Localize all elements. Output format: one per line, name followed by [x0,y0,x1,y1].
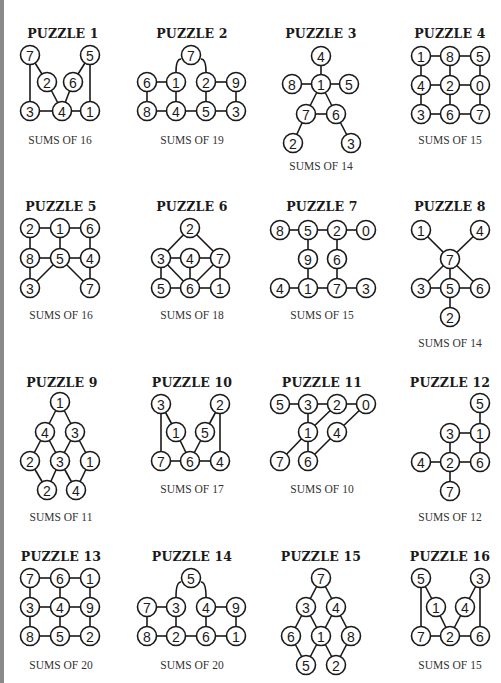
number-circle: 2 [167,627,186,646]
number-circle: 1 [211,279,230,298]
sums-label: SUMS OF 15 [418,659,481,671]
puzzle-15: 73461852 [282,569,361,675]
number-circle: 6 [282,627,301,646]
svg-text:5: 5 [276,397,284,413]
puzzle-13: 761349852 [21,569,100,646]
number-circle: 7 [211,249,230,268]
svg-text:1: 1 [172,75,180,91]
number-circle: 6 [471,453,490,472]
sums-label: SUMS OF 16 [29,309,92,321]
number-circle: 4 [412,453,431,472]
puzzle-title: PUZZLE 7 [286,199,358,214]
number-circle: 9 [227,598,246,617]
svg-text:3: 3 [71,425,79,441]
svg-text:4: 4 [317,49,325,65]
number-circle: 2 [327,656,346,675]
puzzle-4: 185420367 [412,47,490,124]
svg-text:1: 1 [417,49,425,65]
number-circle: 2 [441,627,460,646]
svg-text:5: 5 [56,629,64,645]
number-circle: 4 [271,279,290,298]
svg-text:3: 3 [476,571,484,587]
puzzle-title: PUZZLE 4 [414,26,486,41]
svg-text:7: 7 [187,48,195,64]
sums-label: SUMS OF 10 [290,483,353,495]
svg-text:2: 2 [26,221,34,237]
svg-text:2: 2 [446,455,454,471]
number-circle: 1 [299,279,318,298]
number-circle: 8 [21,249,40,268]
puzzle-14: 573498261 [138,569,246,646]
number-circle: 7 [312,569,331,588]
number-circle: 7 [441,250,460,269]
number-circle: 9 [227,73,246,92]
svg-text:2: 2 [446,78,454,94]
svg-text:7: 7 [476,107,484,123]
sums-label: SUMS OF 15 [290,309,353,321]
number-circle: 5 [299,221,318,240]
number-circle: 2 [441,76,460,95]
svg-text:0: 0 [362,397,370,413]
number-circle: 8 [138,627,157,646]
svg-text:4: 4 [333,425,341,441]
puzzle-title: PUZZLE 5 [25,199,97,214]
number-circle: 3 [441,424,460,443]
svg-text:9: 9 [232,75,240,91]
connector-arc [201,59,206,72]
svg-text:5: 5 [304,223,312,239]
svg-text:3: 3 [232,104,240,120]
svg-text:8: 8 [143,104,151,120]
number-circle: 6 [328,250,347,269]
number-circle: 1 [427,598,446,617]
number-circle: 5 [412,569,431,588]
svg-text:6: 6 [476,281,484,297]
svg-text:1: 1 [172,425,180,441]
number-circle: 3 [412,279,431,298]
puzzle-16: 5314726 [412,569,490,646]
puzzle-8: 1473562 [412,221,490,327]
number-circle: 3 [152,395,171,414]
number-circle: 1 [167,423,186,442]
svg-text:2: 2 [43,75,51,91]
number-circle: 2 [38,481,57,500]
svg-text:4: 4 [476,223,484,239]
svg-text:7: 7 [157,454,165,470]
number-circle: 1 [167,73,186,92]
number-circle: 3 [299,395,318,414]
svg-text:6: 6 [304,454,312,470]
number-circle: 2 [81,627,100,646]
svg-text:5: 5 [56,251,64,267]
svg-text:1: 1 [86,571,94,587]
puzzle-title: PUZZLE 11 [282,375,362,390]
number-circle: 4 [53,102,72,121]
number-circle: 2 [441,308,460,327]
number-circle: 6 [81,219,100,238]
number-circle: 3 [227,102,246,121]
svg-text:3: 3 [417,281,425,297]
number-circle: 1 [471,424,490,443]
number-circle: 7 [297,105,316,124]
number-circle: 1 [81,569,100,588]
number-circle: 6 [441,105,460,124]
number-circle: 6 [327,105,346,124]
sums-label: SUMS OF 20 [160,659,223,671]
svg-text:6: 6 [202,629,210,645]
svg-text:2: 2 [333,223,341,239]
svg-text:3: 3 [362,281,370,297]
svg-text:5: 5 [476,396,484,412]
number-circle: 4 [167,102,186,121]
svg-text:1: 1 [304,425,312,441]
puzzle-title: PUZZLE 15 [281,549,361,564]
svg-text:7: 7 [143,600,151,616]
puzzle-title: PUZZLE 14 [152,549,232,564]
number-circle: 3 [471,569,490,588]
number-circle: 3 [412,105,431,124]
number-circle: 3 [152,249,171,268]
svg-text:1: 1 [56,221,64,237]
number-circle: 8 [21,627,40,646]
number-circle: 4 [181,249,200,268]
puzzle-title: PUZZLE 2 [156,26,228,41]
svg-text:6: 6 [186,454,194,470]
number-circle: 8 [138,102,157,121]
svg-text:2: 2 [202,75,210,91]
